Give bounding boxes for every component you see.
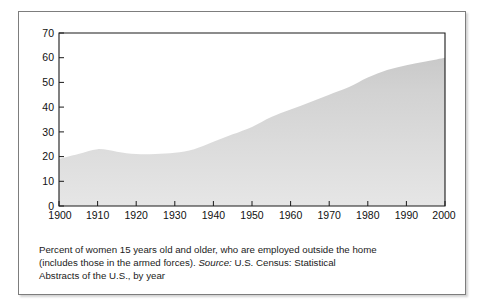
caption-source-label: Source: bbox=[198, 257, 231, 268]
y-tick-label: 70 bbox=[42, 27, 54, 39]
x-tick-label: 2000 bbox=[432, 209, 456, 221]
x-tick-label: 1940 bbox=[202, 209, 226, 221]
y-tick-label: 40 bbox=[42, 101, 54, 113]
y-axis-labels: 0 10 20 30 40 50 60 70 bbox=[42, 27, 54, 212]
caption-line-2-pre: (includes those in the armed forces). bbox=[39, 257, 198, 268]
caption-line-2: (includes those in the armed forces). So… bbox=[39, 256, 449, 269]
y-tick-label: 30 bbox=[42, 126, 54, 138]
x-axis-labels: 1900 1910 1920 1930 1940 1950 1960 1970 … bbox=[48, 209, 456, 221]
x-tick-label: 1990 bbox=[395, 209, 419, 221]
y-tick-label: 10 bbox=[42, 175, 54, 187]
x-tick-label: 1900 bbox=[48, 209, 72, 221]
caption-line-1: Percent of women 15 years old and older,… bbox=[39, 243, 449, 256]
x-tick-label: 1980 bbox=[356, 209, 380, 221]
caption-line-2-post: U.S. Census: Statistical bbox=[232, 257, 336, 268]
x-tick-label: 1910 bbox=[86, 209, 110, 221]
x-tick-label: 1930 bbox=[163, 209, 187, 221]
x-tick-label: 1950 bbox=[240, 209, 264, 221]
x-tick-label: 1970 bbox=[318, 209, 342, 221]
x-tick-label: 1920 bbox=[125, 209, 149, 221]
chart-caption: Percent of women 15 years old and older,… bbox=[39, 243, 449, 283]
y-tick-label: 60 bbox=[42, 51, 54, 63]
caption-line-3: Abstracts of the U.S., by year bbox=[39, 269, 449, 282]
figure-frame: 0 10 20 30 40 50 60 70 bbox=[18, 11, 466, 295]
y-tick-label: 20 bbox=[42, 150, 54, 162]
x-tick-label: 1960 bbox=[279, 209, 303, 221]
y-tick-label: 50 bbox=[42, 76, 54, 88]
